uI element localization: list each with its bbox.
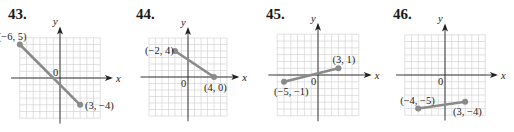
origin-label: 0 bbox=[311, 76, 316, 87]
x-axis-label: x bbox=[374, 70, 380, 81]
line-segment bbox=[20, 45, 80, 105]
point-label: (3, 1) bbox=[332, 54, 355, 66]
endpoint bbox=[415, 106, 421, 112]
coordinate-graph: xy0(−5, −1)(3, 1) bbox=[266, 0, 394, 132]
endpoint bbox=[335, 65, 341, 71]
y-axis-label: y bbox=[52, 16, 58, 27]
x-axis-label: x bbox=[115, 73, 121, 84]
endpoint bbox=[77, 102, 83, 108]
y-axis-label: y bbox=[437, 13, 443, 24]
point-label: (−2, 4) bbox=[145, 45, 174, 57]
endpoint bbox=[462, 99, 468, 105]
point-label: (4, 0) bbox=[204, 82, 227, 94]
origin-label: 0 bbox=[181, 78, 186, 89]
coordinate-graph: xy0(−4, −5)(3, −4) bbox=[393, 0, 514, 132]
problem-43: 43. xy0(−6, 5)(3, −4) bbox=[8, 0, 136, 132]
point-label: (−5, −1) bbox=[274, 86, 309, 98]
problem-46: 46. xy0(−4, −5)(3, −4) bbox=[393, 0, 514, 132]
origin-label: 0 bbox=[53, 67, 58, 78]
point-label: (3, −4) bbox=[453, 106, 482, 118]
endpoint bbox=[211, 74, 217, 80]
endpoint bbox=[281, 79, 287, 85]
origin-label: 0 bbox=[438, 76, 443, 87]
endpoint bbox=[17, 42, 23, 48]
point-label: (3, −4) bbox=[85, 100, 114, 112]
coordinate-graph: xy0(−6, 5)(3, −4) bbox=[8, 0, 136, 132]
x-axis-label: x bbox=[241, 72, 247, 83]
y-axis-label: y bbox=[310, 13, 316, 24]
point-label: (−4, −5) bbox=[400, 95, 435, 107]
problem-44: 44. xy0(−2, 4)(4, 0) bbox=[136, 0, 264, 132]
point-label: (−6, 5) bbox=[0, 31, 27, 43]
x-axis-label: x bbox=[500, 70, 506, 81]
problem-45: 45. xy0(−5, −1)(3, 1) bbox=[266, 0, 394, 132]
y-axis-label: y bbox=[180, 17, 186, 28]
coordinate-graph: xy0(−2, 4)(4, 0) bbox=[136, 0, 264, 132]
